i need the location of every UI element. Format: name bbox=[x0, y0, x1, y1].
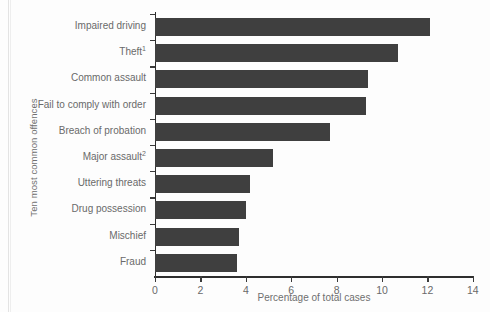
x-axis-title: Percentage of total cases bbox=[155, 292, 473, 303]
x-axis-tick bbox=[337, 276, 338, 282]
bar-breach-of-probation bbox=[155, 123, 330, 141]
bar-uttering-threats bbox=[155, 175, 250, 193]
category-label: Breach of probation bbox=[59, 122, 146, 140]
page-margin-rule-secondary bbox=[10, 0, 11, 312]
category-label: Fail to comply with order bbox=[38, 96, 146, 114]
category-tick bbox=[150, 66, 155, 67]
x-axis-tick bbox=[382, 276, 383, 282]
bar-theft bbox=[155, 44, 398, 62]
category-tick bbox=[150, 145, 155, 146]
plot-area: Impaired driving Theft1 Common assault F… bbox=[155, 12, 473, 276]
x-axis-tick bbox=[200, 276, 201, 282]
category-tick bbox=[150, 171, 155, 172]
category-tick bbox=[150, 119, 155, 120]
category-label: Fraud bbox=[120, 253, 146, 271]
category-tick bbox=[150, 250, 155, 251]
page-margin-rule bbox=[8, 0, 9, 312]
x-axis-tick bbox=[427, 276, 428, 282]
category-tick bbox=[150, 93, 155, 94]
category-tick bbox=[150, 224, 155, 225]
bar-mischief bbox=[155, 228, 239, 246]
x-axis-tick bbox=[246, 276, 247, 282]
bar-common-assault bbox=[155, 70, 368, 88]
category-tick bbox=[150, 197, 155, 198]
category-label: Impaired driving bbox=[75, 17, 146, 35]
category-tick bbox=[150, 40, 155, 41]
footnote-marker: 2 bbox=[142, 150, 146, 157]
category-label: Common assault bbox=[71, 69, 146, 87]
x-axis-line bbox=[154, 276, 474, 278]
category-label-text: Theft bbox=[119, 46, 142, 57]
bar-major-assault bbox=[155, 149, 273, 167]
category-label-text: Major assault bbox=[83, 151, 142, 162]
x-axis-tick bbox=[155, 276, 156, 282]
category-label: Major assault2 bbox=[83, 148, 146, 166]
bar-fail-to-comply-with-order bbox=[155, 97, 366, 115]
category-tick bbox=[150, 14, 155, 15]
category-label: Mischief bbox=[109, 227, 146, 245]
footnote-marker: 1 bbox=[142, 45, 146, 52]
x-axis-tick bbox=[291, 276, 292, 282]
bar-drug-possession bbox=[155, 201, 246, 219]
category-label: Uttering threats bbox=[78, 174, 146, 192]
x-axis-tick bbox=[473, 276, 474, 282]
category-label: Theft1 bbox=[119, 43, 146, 61]
bar-impaired-driving bbox=[155, 18, 430, 36]
category-label: Drug possession bbox=[72, 200, 146, 218]
bar-chart: Ten most common offences Impaired drivin… bbox=[0, 0, 490, 312]
bar-fraud bbox=[155, 254, 237, 272]
y-axis-title: Ten most common offences bbox=[28, 53, 39, 263]
